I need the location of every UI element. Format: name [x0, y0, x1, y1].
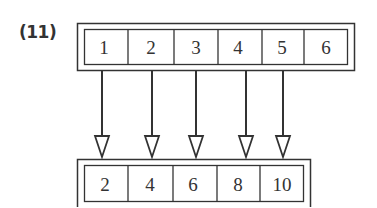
bottom-cell-value: 2: [100, 174, 110, 195]
bottom-cell-value: 10: [273, 174, 292, 195]
top-cell-value: 5: [277, 37, 287, 58]
top-cell-value: 2: [146, 37, 156, 58]
top-array: 123456: [78, 24, 355, 71]
arrowhead-icon: [276, 136, 290, 157]
top-cell-value: 6: [321, 37, 331, 58]
arrowhead-icon: [189, 136, 203, 157]
arrowhead-icon: [95, 136, 109, 157]
top-outer-box: [78, 24, 355, 71]
top-cell-value: 4: [233, 37, 243, 58]
arrowhead-icon: [239, 136, 253, 157]
bottom-cell-value: 6: [188, 174, 198, 195]
mapping-arrow: [239, 71, 253, 157]
arrows: [95, 71, 290, 157]
mapping-arrow: [189, 71, 203, 157]
top-cell-value: 1: [99, 37, 109, 58]
bottom-cell-value: 8: [233, 174, 243, 195]
top-inner-box: [85, 30, 348, 65]
bottom-cell-value: 4: [145, 174, 155, 195]
mapping-arrow: [276, 71, 290, 157]
top-cell-value: 3: [191, 37, 201, 58]
arrowhead-icon: [145, 136, 159, 157]
mapping-arrow: [145, 71, 159, 157]
bottom-array: 246810: [78, 160, 311, 208]
mapping-arrow: [95, 71, 109, 157]
mapping-diagram: 123456 246810: [0, 0, 377, 207]
